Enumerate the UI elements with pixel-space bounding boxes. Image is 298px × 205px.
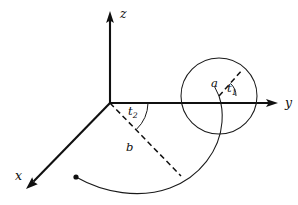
angle-t2-label-base: t — [128, 104, 133, 118]
angle-t1-label-subscript: 1 — [232, 88, 237, 97]
angle-t2-label-subscript: 2 — [133, 111, 138, 120]
angle-t2-label: t2 — [128, 106, 138, 118]
diagram-svg — [0, 0, 298, 205]
x-axis-label: x — [15, 170, 22, 183]
radius-b-label: b — [126, 142, 133, 154]
trajectory-start-dot — [73, 174, 78, 179]
y-axis-label: y — [285, 97, 292, 110]
spiral-trajectory-curve — [76, 96, 222, 194]
z-axis — [106, 11, 114, 103]
z-axis-label: z — [120, 8, 127, 21]
x-axis-line — [34, 103, 111, 182]
x-axis — [26, 103, 110, 189]
angle-t1-label-base: t — [227, 81, 232, 95]
angle-t1-label: t1 — [227, 83, 237, 95]
radius-a-label: a — [211, 78, 218, 90]
radius-b-dashed-line — [110, 103, 181, 176]
figure-canvas: z y x a b t1 t2 — [0, 0, 298, 205]
angle-t2-arc — [136, 103, 148, 129]
